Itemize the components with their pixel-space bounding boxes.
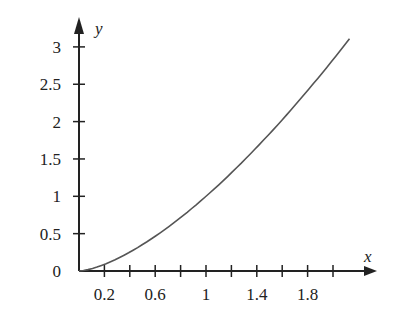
y-tick-label: 1 <box>53 187 62 206</box>
x-tick-label: 1.8 <box>297 285 318 304</box>
x-axis-arrow-icon <box>364 266 377 276</box>
y-tick-label: 3 <box>53 38 62 57</box>
x-tick-label: 1.4 <box>246 285 268 304</box>
axes: 0.20.611.41.800.511.522.53 <box>40 17 377 304</box>
y-tick-label: 0.5 <box>40 225 61 244</box>
y-tick-label: 0 <box>53 262 62 281</box>
y-axis-arrow-icon <box>74 17 84 34</box>
y-tick-label: 2 <box>53 113 62 132</box>
x-axis-label: x <box>363 247 372 266</box>
y-tick-label: 1.5 <box>40 150 61 169</box>
data-line <box>79 39 350 271</box>
line-chart: 0.20.611.41.800.511.522.53 x y <box>0 0 397 317</box>
y-axis-label: y <box>93 19 103 38</box>
x-tick-label: 0.6 <box>145 285 166 304</box>
y-tick-label: 2.5 <box>40 75 61 94</box>
x-tick-label: 1 <box>202 285 211 304</box>
x-tick-label: 0.2 <box>94 285 115 304</box>
